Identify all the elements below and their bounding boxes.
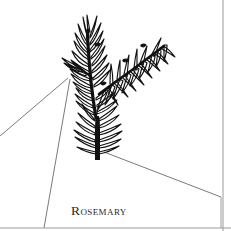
figure-background xyxy=(0,0,231,231)
leaf-bud xyxy=(141,44,146,47)
leaf-bud xyxy=(95,43,100,46)
rosemary-figure: Rosemary xyxy=(0,0,231,231)
leaf-bud xyxy=(123,59,128,62)
illustration-canvas xyxy=(0,0,231,231)
leaf-bud xyxy=(101,82,106,85)
